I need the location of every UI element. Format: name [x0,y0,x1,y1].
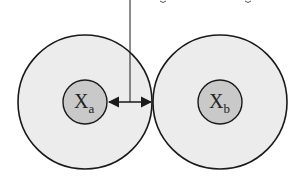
right-label: X [209,90,224,112]
left-subscript: a [88,101,94,116]
diagram-canvas: Xa Xb [0,0,299,181]
truncated-caption [160,1,251,3]
right-subscript: b [223,101,230,116]
left-label: X [74,90,89,112]
